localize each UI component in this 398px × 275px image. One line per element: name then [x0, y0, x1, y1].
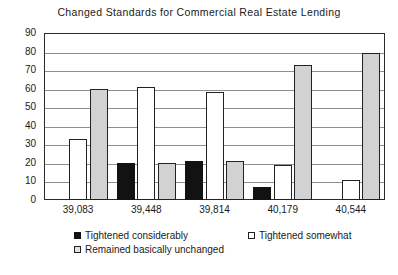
- bar-group: [185, 33, 244, 200]
- bar: [362, 53, 380, 200]
- legend-item: Tightened considerably: [74, 230, 188, 241]
- bar: [185, 161, 203, 200]
- x-tick-label: 39,083: [44, 204, 112, 216]
- bar-group: [321, 33, 380, 200]
- y-tick-label: 30: [25, 139, 36, 149]
- x-tick-label: 39,814: [180, 204, 248, 216]
- bar: [90, 89, 108, 200]
- y-tick-label: 70: [25, 65, 36, 75]
- y-tick-label: 10: [25, 176, 36, 186]
- y-tick-label: 80: [25, 47, 36, 57]
- y-tick-label: 90: [25, 28, 36, 38]
- bar: [69, 139, 87, 200]
- legend-swatch-icon: [74, 232, 81, 239]
- bar: [206, 92, 224, 200]
- y-tick-label: 20: [25, 158, 36, 168]
- legend-swatch-icon: [248, 232, 255, 239]
- bar-group: [117, 33, 176, 200]
- y-tick-label: 0: [30, 195, 36, 205]
- legend-label: Tightened somewhat: [259, 230, 351, 241]
- bar-group: [253, 33, 312, 200]
- legend-item: Remained basically unchanged: [74, 244, 224, 255]
- bar: [294, 65, 312, 200]
- chart-title: Changed Standards for Commercial Real Es…: [0, 6, 398, 18]
- bar: [226, 161, 244, 200]
- legend-swatch-icon: [74, 246, 81, 253]
- bars-layer: [44, 33, 385, 200]
- legend-item: Tightened somewhat: [248, 230, 351, 241]
- y-tick-label: 60: [25, 84, 36, 94]
- bar: [137, 87, 155, 200]
- x-tick-label: 40,544: [317, 204, 385, 216]
- y-axis: 0102030405060708090: [0, 33, 40, 200]
- legend-label: Tightened considerably: [85, 230, 188, 241]
- bar: [342, 180, 360, 200]
- x-axis: 39,08339,44839,81440,17940,544: [44, 204, 385, 218]
- bar-group: [49, 33, 108, 200]
- x-tick-label: 40,179: [249, 204, 317, 216]
- bar: [274, 165, 292, 200]
- y-tick-label: 40: [25, 121, 36, 131]
- bar: [158, 163, 176, 200]
- bar: [253, 187, 271, 200]
- bar-chart: Changed Standards for Commercial Real Es…: [0, 0, 398, 275]
- x-tick-label: 39,448: [112, 204, 180, 216]
- bar: [117, 163, 135, 200]
- legend-label: Remained basically unchanged: [85, 244, 224, 255]
- chart-legend: Tightened considerablyTightened somewhat…: [74, 230, 384, 264]
- y-tick-label: 50: [25, 102, 36, 112]
